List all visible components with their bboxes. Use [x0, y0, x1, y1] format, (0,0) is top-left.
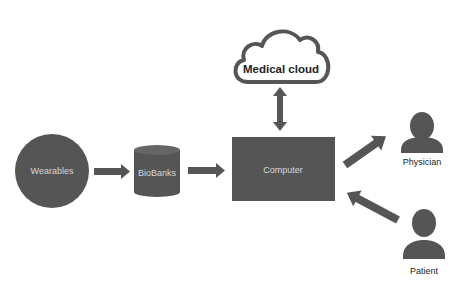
biobanks-node: BioBanks — [134, 145, 180, 197]
diagram-canvas: Wearables BioBanks Computer Medical clou… — [0, 0, 466, 289]
wearables-node: Wearables — [15, 134, 89, 208]
person-icon — [403, 209, 445, 259]
person-icon — [401, 112, 443, 153]
arrow-computer-to-physician — [340, 129, 391, 172]
patient-node: Patient — [403, 209, 445, 276]
wearables-label: Wearables — [31, 166, 74, 176]
computer-label: Computer — [263, 165, 303, 175]
biobanks-label: BioBanks — [138, 168, 177, 178]
patient-label: Patient — [410, 266, 439, 276]
arrow-computer-cloud-bidirectional — [273, 87, 287, 131]
computer-node: Computer — [232, 137, 335, 201]
medical-cloud-node: Medical cloud — [235, 31, 328, 82]
arrow-wearables-to-biobanks — [94, 164, 130, 179]
medical-cloud-label: Medical cloud — [243, 63, 319, 75]
physician-label: Physician — [403, 157, 442, 167]
arrow-biobanks-to-computer — [188, 163, 225, 178]
physician-node: Physician — [401, 112, 443, 167]
arrow-patient-to-computer — [343, 185, 403, 228]
